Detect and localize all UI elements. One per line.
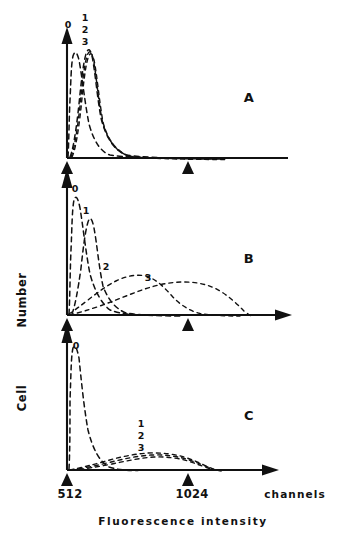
x-axis-caption: Fluorescence intensity [98,515,267,527]
panel-b-curve-label-1: 1 [83,205,90,216]
panel-a-curve-3 [72,54,228,160]
panel-a-curve-label-1: 1 [82,12,89,23]
x-axis-tick-label-512: 512 [58,487,83,501]
panel-c-curve-label-3: 3 [138,442,145,453]
panel-b-curve-0 [69,197,145,315]
x-axis-tick-label-1024: 1024 [175,487,208,501]
panel-b-curve-3 [70,282,252,316]
flow-cytometry-figure: Number Cell 0 1 2 3 A [0,0,364,539]
x-axis-unit-label: channels [264,488,326,500]
panel-a-curve-label-0: 0 [65,19,72,30]
panel-b-letter: B [244,251,254,266]
panel-c: 0 1 2 3 C [61,323,279,486]
panel-b-curve-2 [69,275,240,316]
panel-a-curve-label-3: 3 [82,36,89,47]
panel-a: 0 1 2 3 A [61,12,288,174]
panel-a-letter: A [244,90,255,105]
panel-c-curve-label-0: 0 [73,340,80,351]
y-axis-caption-number: Number [15,272,29,327]
panel-b-curve-label-2: 2 [103,261,110,272]
panel-b-marker-1024 [182,318,194,331]
panel-b: 0 1 2 3 B [61,168,292,331]
panel-c-marker-1024 [182,473,194,486]
panel-b-curve-label-0: 0 [72,183,79,194]
panel-b-x-axis-arrow [275,310,292,321]
y-axis-caption-cell: Cell [15,385,29,412]
panel-a-curve-1 [70,50,215,159]
figure-container: Number Cell 0 1 2 3 A [0,0,364,539]
panel-c-curve-0 [69,346,138,470]
panel-c-letter: C [244,408,254,423]
panel-c-x-axis-arrow [262,465,279,476]
panel-c-y-axis-arrow [62,323,73,343]
panel-c-curve-label-1: 1 [138,418,145,429]
panel-a-curve-label-2: 2 [82,24,89,35]
panel-c-marker-512 [61,473,73,486]
panel-b-curve-label-3: 3 [145,272,152,283]
panel-a-marker-1024 [182,161,194,174]
panel-c-curve-label-2: 2 [138,430,145,441]
